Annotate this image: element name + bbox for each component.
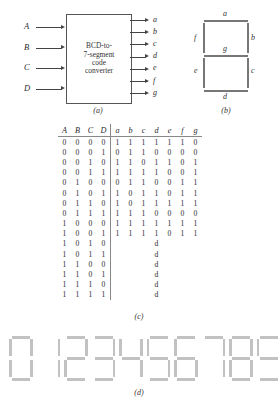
digit-3-segment-b: [113, 339, 116, 356]
digit-0-segment-c: [30, 360, 33, 377]
output-cell: 1: [137, 178, 150, 188]
digit-0-segment-e: [9, 360, 12, 377]
output-cell: 1: [137, 147, 150, 157]
input-wire-a: [36, 27, 62, 28]
input-cell: 0: [84, 259, 97, 269]
table-row: 1010d: [58, 239, 202, 249]
output-cell: 1: [176, 137, 189, 148]
output-cell: 1: [150, 188, 163, 198]
output-cell: 1: [176, 229, 189, 239]
digit-9-segment-f: [257, 339, 260, 356]
input-cell: 1: [58, 219, 71, 229]
segment-d-label: d: [223, 92, 227, 101]
output-cell: 1: [124, 229, 137, 239]
input-cell: 0: [97, 259, 111, 269]
input-cell: 0: [97, 178, 111, 188]
output-cell: 0: [189, 208, 202, 218]
output-cell: 1: [189, 229, 202, 239]
seven-segment-digit-0: [8, 336, 34, 382]
input-cell: 0: [97, 198, 111, 208]
digit-2-segment-a: [67, 336, 85, 339]
output-cell: 1: [150, 168, 163, 178]
converter-block: BCD-to- 7-segment code converter: [66, 14, 132, 104]
output-arrow-g: [145, 91, 149, 95]
table-header-row: ABCDabcdefg: [58, 124, 202, 137]
digit-7-segment-b: [223, 339, 226, 356]
segment-g-label: g: [223, 44, 227, 53]
digit-2-segment-d: [67, 378, 85, 381]
input-cell: 1: [84, 157, 97, 167]
input-cell: 0: [84, 229, 97, 239]
digit-4-segment-f: [119, 339, 122, 356]
digit-3-segment-c: [113, 360, 116, 377]
input-cell: 1: [71, 269, 84, 279]
digit-1-segment-c: [58, 360, 61, 377]
digit-8-segment-b: [250, 339, 253, 356]
output-label-b: b: [153, 27, 157, 36]
segment-b-bar: [247, 23, 249, 53]
input-cell: 1: [84, 168, 97, 178]
output-arrow-d: [145, 54, 149, 58]
output-cell: 1: [124, 157, 137, 167]
output-arrow-c: [145, 42, 149, 46]
output-cell: 1: [124, 137, 137, 148]
output-cell: 0: [111, 178, 125, 188]
digit-8-segment-a: [232, 336, 250, 339]
digit-0-segment-f: [9, 339, 12, 356]
output-cell: 0: [176, 157, 189, 167]
input-label-d: D: [24, 83, 30, 93]
output-wire-b: [130, 32, 146, 33]
input-arrow-a: [61, 25, 65, 29]
output-cell: 1: [124, 208, 137, 218]
output-cell: 0: [150, 178, 163, 188]
digit-9-segment-g: [260, 357, 278, 360]
seven-segment-digit-8: [228, 336, 254, 382]
input-cell: 1: [97, 208, 111, 218]
output-cell: 1: [137, 198, 150, 208]
output-cell: 1: [176, 219, 189, 229]
output-label-a: a: [153, 15, 157, 24]
table-row: 01101011111: [58, 198, 202, 208]
input-cell: 1: [58, 239, 71, 249]
digit-6-segment-d: [177, 378, 195, 381]
segment-b-label: b: [251, 33, 255, 42]
input-cell: 1: [58, 249, 71, 259]
dont-care-cell: d: [111, 269, 203, 279]
output-cell: 1: [163, 137, 176, 148]
output-arrow-f: [145, 79, 149, 83]
digit-5-segment-c: [168, 360, 171, 377]
input-cell: 0: [84, 137, 97, 148]
column-header-A: A: [58, 124, 71, 137]
table-row: 01000110011: [58, 178, 202, 188]
seven-segment-digit-2: [63, 336, 89, 382]
output-cell: 1: [150, 198, 163, 208]
input-cell: 1: [71, 259, 84, 269]
output-cell: 0: [124, 188, 137, 198]
input-cell: 1: [71, 208, 84, 218]
output-cell: 0: [163, 147, 176, 157]
output-cell: 0: [189, 137, 202, 148]
truth-table-figure: ABCDabcdefg 0000111111000010110000001011…: [0, 124, 278, 324]
seven-segment-digit-3: [91, 336, 117, 382]
digit-6-segment-g: [177, 357, 195, 360]
output-cell: 0: [163, 168, 176, 178]
segment-c-bar: [247, 58, 249, 88]
output-cell: 0: [124, 198, 137, 208]
input-cell: 1: [84, 290, 97, 300]
input-cell: 0: [84, 147, 97, 157]
input-cell: 0: [84, 188, 97, 198]
digit-9-segment-a: [260, 336, 278, 339]
output-cell: 0: [137, 157, 150, 167]
digit-3-segment-a: [95, 336, 113, 339]
table-row: 00111111001: [58, 168, 202, 178]
digit-0-segment-a: [12, 336, 30, 339]
segment-e-label: e: [194, 66, 198, 75]
table-row: 1111d: [58, 290, 202, 300]
output-cell: 1: [124, 219, 137, 229]
input-arrow-b: [61, 45, 65, 49]
input-cell: 0: [97, 157, 111, 167]
input-cell: 0: [58, 147, 71, 157]
dont-care-cell: d: [111, 280, 203, 290]
input-label-b: B: [24, 42, 29, 52]
digit-5-segment-g: [150, 357, 168, 360]
